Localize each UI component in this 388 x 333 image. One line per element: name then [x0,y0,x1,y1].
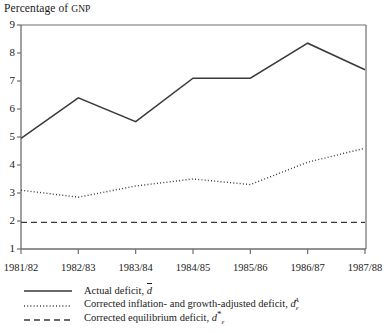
x-axis-tick-label: 1985/86 [224,262,276,273]
legend-item: Corrected equilibrium deficit, d*ε [24,311,388,325]
y-axis-tick-label: 7 [1,75,15,86]
legend-label-corrected-equilibrium-deficit: Corrected equilibrium deficit, d*ε [84,311,224,326]
legend-swatch-dotted [24,299,80,311]
plot-area [0,0,388,280]
y-axis-tick-label: 4 [1,159,15,170]
x-axis-tick-label: 1982/83 [52,262,104,273]
y-axis-tick-label: 2 [1,215,15,226]
y-axis-tick-label: 9 [1,19,15,30]
y-axis-tick-label: 6 [1,103,15,114]
legend-label-actual-deficit: Actual deficit, d [84,284,152,298]
data-series-group [21,43,365,222]
x-axis-tick-label: 1981/82 [0,262,47,273]
legend-item: Corrected inflation- and growth-adjusted… [24,297,388,311]
axes [21,25,366,249]
legend-label-text: Corrected inflation- and growth-adjusted… [84,298,290,309]
legend-symbol-subscript: ε [221,318,224,326]
y-axis-tick-label: 3 [1,187,15,198]
legend-swatch-solid [24,285,80,297]
legend-swatch-dashed [24,313,80,325]
y-axis-tick-label: 8 [1,47,15,58]
legend-item: Actual deficit, d [24,283,388,297]
legend-label-text: Corrected equilibrium deficit, [84,312,212,323]
legend-label-corrected-adjusted-deficit: Corrected inflation- and growth-adjusted… [84,297,303,312]
figure: Percentage of GNP 123456789 1981/821982/… [0,0,388,333]
y-axis-tick-label: 1 [1,243,15,254]
series-line-solid [21,43,365,138]
x-axis-tick-label: 1983/84 [110,262,162,273]
legend: Actual deficit, d Corrected inflation- a… [24,283,388,325]
legend-symbol-d-bar: d [147,284,152,298]
y-axis-tick-label: 5 [1,131,15,142]
legend-symbol-superscript: A [294,296,298,304]
x-axis-tick-label: 1986/87 [282,262,334,273]
x-axis-ticks [21,249,365,254]
legend-label-text: Actual deficit, [84,285,147,296]
x-axis-tick-label: 1984/85 [167,262,219,273]
series-line-dotted [21,148,365,197]
x-axis-tick-label: 1987/88 [339,262,388,273]
